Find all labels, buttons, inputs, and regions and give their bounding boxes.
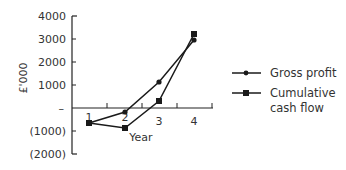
legend-label: Gross profit — [270, 66, 337, 80]
y-tick-label: (2000) — [29, 148, 66, 161]
legend-label: Cumulative — [270, 86, 336, 100]
y-tick-label: 1000 — [38, 79, 66, 92]
cash-flow-markers — [86, 31, 197, 131]
legend: Gross profit Cumulative cash flow — [232, 66, 337, 115]
y-tick-label: 2000 — [38, 56, 66, 69]
y-tick-label: 4000 — [38, 10, 66, 23]
gross-profit-line — [89, 40, 194, 123]
square-marker-icon — [243, 90, 249, 96]
y-axis-label: £'000 — [17, 62, 30, 93]
x-tick-label: 4 — [191, 115, 198, 128]
x-axis-label: Year — [128, 131, 153, 144]
y-tick-label: (1000) — [29, 125, 66, 138]
x-tick-label: 3 — [156, 115, 163, 128]
chart: 4000 3000 2000 1000 – (1000) (2000) £'00… — [0, 0, 346, 170]
legend-item-cumulative-cash-flow: Cumulative cash flow — [232, 86, 336, 115]
y-tick-label: – — [59, 102, 65, 115]
cash-flow-line — [89, 34, 194, 128]
legend-item-gross-profit: Gross profit — [232, 66, 337, 80]
y-tick-label: 3000 — [38, 33, 66, 46]
circle-marker-icon — [244, 71, 249, 76]
legend-label: cash flow — [270, 101, 324, 115]
